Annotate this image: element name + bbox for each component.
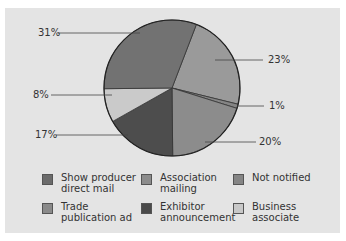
- legend-item-not-notified: Not notified: [233, 172, 332, 185]
- legend-item-show-producer: Show producer direct mail: [42, 172, 141, 194]
- legend-label: Exhibitor announcement: [160, 201, 240, 223]
- slice-label-1: 1%: [269, 100, 285, 112]
- legend-label: Business associate: [252, 201, 332, 223]
- legend-label: Show producer direct mail: [61, 172, 141, 194]
- slice-label-8: 8%: [33, 89, 49, 101]
- legend-swatch: [42, 203, 53, 214]
- slice-label-17: 17%: [35, 129, 57, 141]
- legend-swatch: [233, 174, 244, 185]
- slice-label-20: 20%: [259, 136, 281, 148]
- legend-label: Association mailing: [160, 172, 240, 194]
- slice-label-23: 23%: [268, 54, 290, 66]
- legend-swatch: [141, 174, 152, 185]
- legend-item-business-associate: Business associate: [233, 201, 332, 223]
- legend-label: Not notified: [252, 172, 332, 183]
- legend-swatch: [42, 174, 53, 185]
- legend-swatch: [233, 203, 244, 214]
- slice-label-31: 31%: [38, 27, 60, 39]
- legend-item-trade-publication: Trade publication ad: [42, 201, 141, 223]
- legend-swatch: [141, 203, 152, 214]
- legend-item-association-mailing: Association mailing: [141, 172, 240, 194]
- legend-item-exhibitor: Exhibitor announcement: [141, 201, 240, 223]
- legend-label: Trade publication ad: [61, 201, 141, 223]
